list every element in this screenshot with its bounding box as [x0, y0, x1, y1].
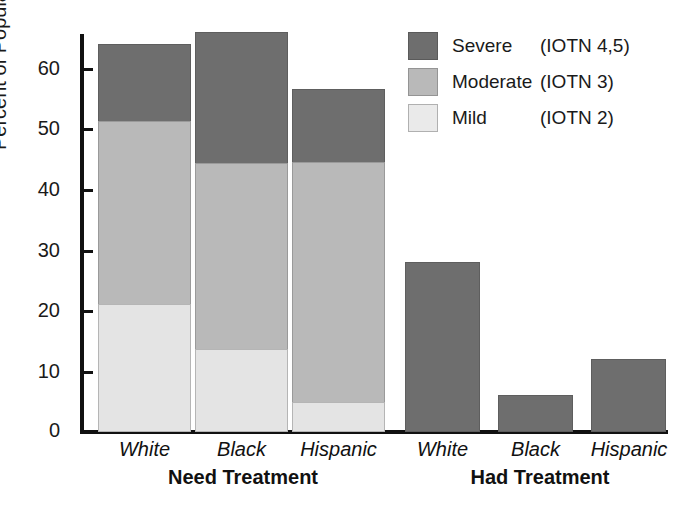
legend-item-moderate: Moderate (IOTN 3) [408, 64, 630, 100]
legend-code-mild: (IOTN 2) [540, 107, 614, 129]
y-tick-label-0: 0 [22, 420, 60, 440]
bar-need-hispanic [292, 89, 385, 432]
x-category-need-hispanic: Hispanic [286, 438, 391, 461]
segment-severe [292, 89, 385, 163]
y-tick-label-10: 10 [22, 361, 60, 381]
bar-need-white [98, 44, 191, 432]
group-label-need-treatment: Need Treatment [98, 466, 388, 489]
segment-moderate [195, 163, 288, 350]
legend-swatch-severe-icon [408, 32, 438, 60]
legend-swatch-mild-icon [408, 104, 438, 132]
segment-severe [98, 44, 191, 122]
legend-label-mild: Mild [452, 107, 540, 129]
x-category-had-black: Black [498, 438, 573, 461]
y-axis-label: Percent of Population [0, 0, 11, 150]
segment-severe [498, 395, 573, 432]
segment-mild [98, 304, 191, 432]
bar-had-white [405, 262, 480, 432]
x-category-need-white: White [98, 438, 191, 461]
x-category-need-black: Black [195, 438, 288, 461]
segment-severe [405, 262, 480, 432]
bar-had-hispanic [591, 359, 666, 432]
bar-had-black [498, 395, 573, 432]
segment-severe [195, 32, 288, 164]
legend-code-severe: (IOTN 4,5) [540, 35, 630, 57]
legend-code-moderate: (IOTN 3) [540, 71, 614, 93]
segment-moderate [292, 162, 385, 403]
legend-item-severe: Severe (IOTN 4,5) [408, 28, 630, 64]
segment-mild [292, 402, 385, 432]
y-tick-label-20: 20 [22, 300, 60, 320]
legend-swatch-moderate-icon [408, 68, 438, 96]
bar-need-black [195, 32, 288, 432]
group-label-had-treatment: Had Treatment [400, 466, 680, 489]
y-tick-label-50: 50 [22, 118, 60, 138]
x-category-had-white: White [405, 438, 480, 461]
legend: Severe (IOTN 4,5) Moderate (IOTN 3) Mild… [408, 28, 630, 136]
legend-item-mild: Mild (IOTN 2) [408, 100, 630, 136]
segment-mild [195, 349, 288, 432]
chart-figure: Percent of Population 0 10 20 30 40 50 6… [0, 0, 680, 509]
y-tick-label-60: 60 [22, 58, 60, 78]
segment-severe [591, 359, 666, 432]
legend-label-severe: Severe [452, 35, 540, 57]
y-tick-label-30: 30 [22, 240, 60, 260]
segment-moderate [98, 121, 191, 305]
y-tick-label-40: 40 [22, 179, 60, 199]
x-category-had-hispanic: Hispanic [578, 438, 680, 461]
legend-label-moderate: Moderate [452, 71, 540, 93]
